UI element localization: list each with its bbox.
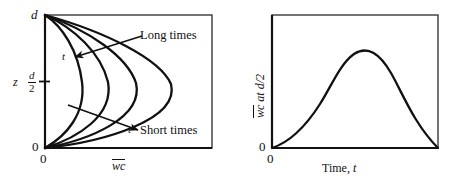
overline-bar: [253, 105, 254, 118]
panel-right-flux-vs-time: 0 0 wc at d/2 Time, t: [228, 0, 451, 190]
right-x-axis-title-main: Time,: [322, 161, 353, 175]
right-y-axis-title: wc at d/2: [254, 74, 266, 118]
panel-left-concentration-profiles: d 0 0 z d 2 wc Long times Short times t …: [0, 0, 228, 190]
right-x-label-zero: 0: [267, 152, 274, 165]
left-arrow-long-times: [75, 36, 142, 57]
arrow-label-t-upper: t: [62, 51, 65, 62]
overline-wrapper: wc: [254, 105, 266, 118]
right-y-label-zero: 0: [259, 140, 266, 153]
frac-denominator: 2: [28, 82, 36, 95]
figure-two-panel-chart: d 0 0 z d 2 wc Long times Short times t …: [0, 0, 451, 190]
left-y-label-d: d: [31, 8, 38, 21]
right-y-axis-title-rest: at d/2: [253, 74, 267, 105]
left-curve-t3: [45, 15, 137, 148]
right-x-axis-title-var: t: [353, 161, 356, 175]
left-y-label-zero: 0: [32, 140, 39, 153]
overline-wrapper: wc: [112, 160, 125, 172]
right-plot-frame: [272, 15, 438, 148]
right-x-axis-title: Time, t: [322, 162, 356, 174]
left-x-axis-title: wc: [112, 160, 125, 172]
annotation-short-times: Short times: [140, 124, 197, 137]
right-curve-flux: [272, 50, 438, 148]
frac-numerator: d: [28, 70, 36, 82]
left-x-axis-title-text: wc: [112, 160, 125, 172]
right-y-axis-title-overlined: wc: [254, 105, 266, 118]
left-y-tick-label-d-over-2: d 2: [28, 70, 36, 94]
left-x-label-zero: 0: [40, 152, 47, 165]
arrow-label-t-lower: t: [128, 124, 131, 135]
annotation-long-times: Long times: [140, 29, 197, 42]
left-y-axis-title: z: [13, 76, 18, 88]
overline-bar: [112, 159, 125, 160]
left-curve-t2: [45, 15, 109, 148]
